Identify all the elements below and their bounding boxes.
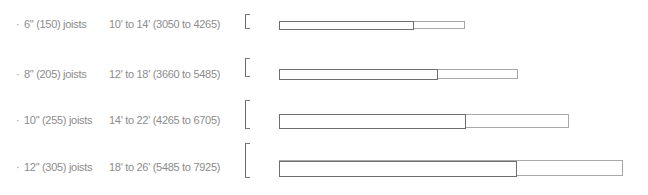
joist-section-icon: [245, 58, 250, 77]
span-range-label: 18' to 26' (5485 to 7925): [109, 161, 220, 173]
min-span-bar: [279, 21, 414, 30]
span-range-label: 10' to 14' (3050 to 4265): [109, 18, 220, 30]
span-range-label: 12' to 18' (3660 to 5485): [109, 68, 220, 80]
bullet: ·: [16, 114, 20, 126]
joist-size-label: 10" (255) joists: [24, 114, 92, 126]
bullet: ·: [16, 161, 20, 173]
min-span-bar: [279, 114, 466, 129]
joist-section-icon: [245, 143, 250, 178]
min-span-bar: [279, 69, 438, 80]
joist-size-label: 8" (205) joists: [24, 68, 86, 80]
joist-section-icon: [245, 100, 250, 129]
min-span-bar: [279, 161, 517, 177]
joist-section-icon: [245, 14, 250, 29]
bullet: ·: [16, 18, 20, 30]
joist-size-label: 6" (150) joists: [24, 18, 86, 30]
span-range-label: 14' to 22' (4265 to 6705): [109, 114, 220, 126]
joist-size-label: 12" (305) joists: [24, 161, 92, 173]
bullet: ·: [16, 68, 20, 80]
